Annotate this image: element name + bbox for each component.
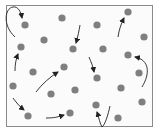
particle <box>93 21 100 28</box>
particle <box>17 43 24 50</box>
particle <box>29 68 36 75</box>
particle <box>135 69 142 76</box>
particle <box>47 90 54 97</box>
container-box <box>7 6 153 127</box>
particle <box>9 82 16 89</box>
particle <box>58 14 65 21</box>
particle <box>24 112 31 119</box>
particle <box>71 86 78 93</box>
particle <box>117 84 124 91</box>
particle <box>40 36 47 43</box>
particle <box>60 63 67 70</box>
particle <box>66 109 73 116</box>
particle <box>21 21 28 28</box>
particle <box>140 33 147 40</box>
gas-particles-diagram <box>0 0 160 131</box>
particle <box>69 45 76 52</box>
particle <box>124 51 131 58</box>
particle <box>114 114 121 121</box>
particle <box>124 8 131 15</box>
particle <box>93 74 100 81</box>
particle <box>92 101 99 108</box>
particle <box>138 98 145 105</box>
particle <box>99 45 106 52</box>
